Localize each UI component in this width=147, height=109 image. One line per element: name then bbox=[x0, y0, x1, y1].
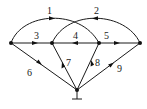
edge-label-4: 4 bbox=[73, 30, 78, 41]
edge-label-9: 9 bbox=[117, 63, 122, 74]
edge-label-8: 8 bbox=[95, 57, 100, 68]
edge-label-2: 2 bbox=[94, 5, 99, 16]
edge-1 bbox=[11, 18, 99, 43]
arrow-icon-edge-2 bbox=[92, 16, 98, 20]
edge-label-1: 1 bbox=[47, 5, 52, 16]
network-graph: 1 2 3 4 5 6 7 8 9 bbox=[0, 0, 147, 109]
edge-label-6: 6 bbox=[27, 67, 32, 78]
ground-icon bbox=[72, 90, 82, 99]
arrow-icon-edge-4 bbox=[72, 41, 78, 45]
edge-label-5: 5 bbox=[104, 30, 109, 41]
edge-label-3: 3 bbox=[34, 30, 39, 41]
edge-2 bbox=[52, 18, 140, 43]
arrow-icon-edge-6 bbox=[36, 59, 42, 65]
edge-label-7: 7 bbox=[66, 57, 71, 68]
node-mid-left bbox=[50, 41, 54, 45]
edge-9 bbox=[77, 43, 140, 90]
arrow-icon-edge-8 bbox=[91, 60, 95, 66]
node-mid-right bbox=[97, 41, 101, 45]
arrow-icon-edge-9 bbox=[108, 62, 114, 67]
arrow-icon-edge-3 bbox=[32, 41, 38, 45]
node-left bbox=[9, 41, 13, 45]
arrow-icon-edge-5 bbox=[114, 41, 120, 45]
arrow-icon-edge-1 bbox=[49, 16, 55, 20]
node-right bbox=[138, 41, 142, 45]
